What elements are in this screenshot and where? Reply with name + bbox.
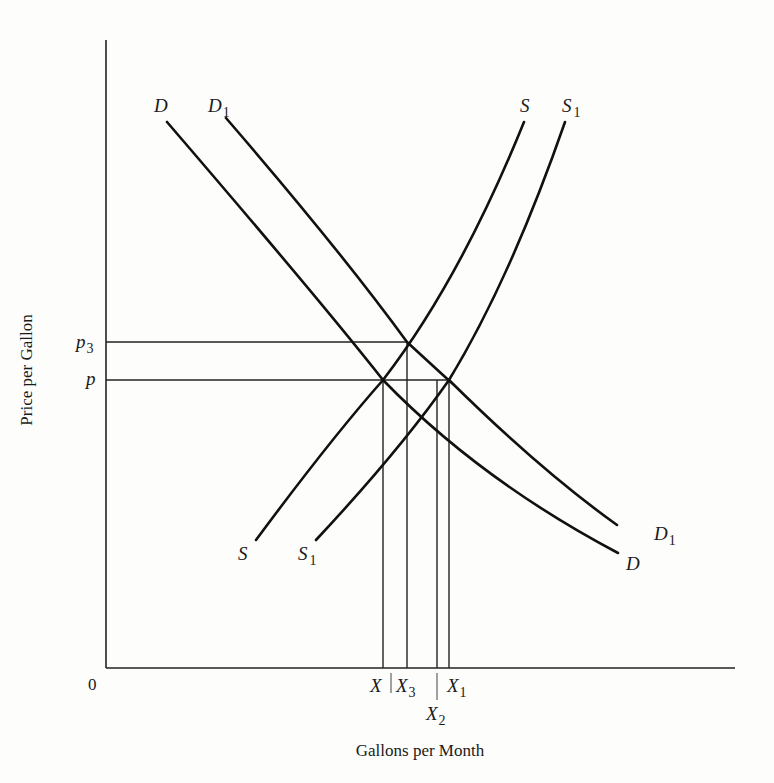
supply-curve-s1 — [316, 122, 565, 540]
quantity-label-x: X — [369, 675, 383, 696]
d-label-top: D — [153, 95, 168, 116]
s-label-bottom: S — [238, 543, 248, 564]
s-label-top: S — [520, 95, 530, 116]
price-label-p3: p3 — [74, 331, 94, 356]
supply-demand-diagram: 0 D D1 S S1 S S1 D1 D p3 p — [0, 0, 774, 783]
quantity-label-x1: X1 — [446, 675, 467, 700]
demand-curve-d1 — [226, 118, 617, 525]
quantity-label-x3: X3 — [395, 675, 416, 700]
demand-curve-d — [167, 122, 618, 553]
quantity-label-x2: X2 — [425, 703, 446, 728]
x-axis-title: Gallons per Month — [356, 741, 485, 760]
d1-label-bottom: D1 — [653, 523, 676, 548]
origin-label: 0 — [88, 675, 97, 694]
price-label-p: p — [84, 368, 96, 389]
s1-label-bottom: S1 — [298, 543, 317, 568]
y-axis-title: Price per Gallon — [17, 314, 36, 426]
d-label-bottom: D — [625, 553, 640, 574]
supply-curve-s — [256, 122, 524, 540]
s1-label-top: S1 — [562, 95, 581, 120]
d1-label-top: D1 — [207, 95, 230, 120]
